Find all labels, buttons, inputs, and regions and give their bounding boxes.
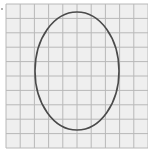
grid-ellipse-diagram xyxy=(0,0,148,154)
figure-canvas xyxy=(0,0,148,154)
